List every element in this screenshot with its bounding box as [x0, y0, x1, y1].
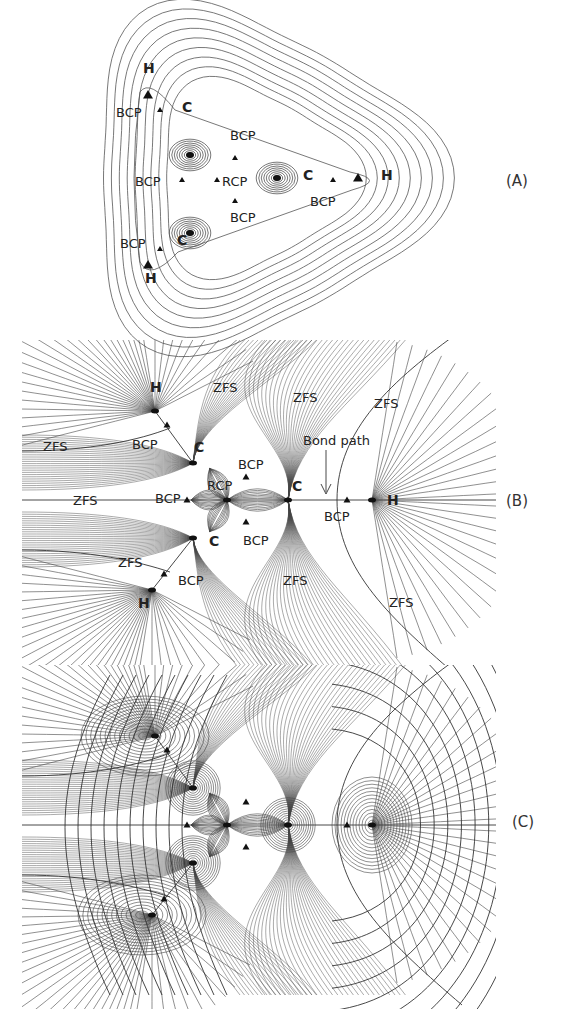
- gradient-path: [0, 915, 152, 968]
- gradient-path: [0, 915, 152, 918]
- gradient-path: [0, 736, 155, 758]
- nucleus-marker: [148, 913, 156, 918]
- gradient-path: [0, 915, 152, 1003]
- gradient-path: [372, 675, 427, 825]
- gradient-path: [152, 915, 204, 1009]
- gradient-path: [288, 825, 364, 995]
- gradient-path: [249, 825, 289, 995]
- panel-c: (C): [0, 0, 564, 1009]
- zfs-separatrix: [337, 825, 462, 1005]
- gradient-path: [372, 817, 532, 825]
- gradient-path: [77, 563, 155, 736]
- gradient-path: [101, 554, 155, 736]
- gradient-path: [193, 863, 258, 995]
- gradient-path: [288, 825, 400, 995]
- gradient-path: [193, 665, 267, 788]
- gradient-path: [0, 733, 155, 736]
- bcp-marker: [243, 844, 250, 850]
- gradient-path: [288, 825, 374, 995]
- gradient-path: [372, 825, 532, 833]
- nucleus-marker: [284, 823, 292, 828]
- gradient-contour-field-c: [0, 0, 564, 1009]
- gradient-path: [372, 825, 427, 975]
- gradient-path: [372, 825, 397, 983]
- gradient-path: [44, 582, 155, 736]
- gradient-path: [0, 915, 152, 931]
- gradient-path: [372, 667, 397, 825]
- gradient-path: [0, 721, 155, 737]
- gradient-path: [193, 665, 249, 788]
- gradient-path: [288, 665, 385, 825]
- nucleus-marker: [151, 734, 159, 739]
- nucleus-marker: [189, 786, 197, 791]
- gradient-path: [288, 665, 343, 825]
- gradient-path: [155, 646, 218, 736]
- field-group: [0, 527, 543, 1009]
- bcp-marker: [184, 822, 191, 828]
- outer-density-contour: [332, 550, 530, 1009]
- bcp-marker: [344, 822, 351, 828]
- bcp-marker: [243, 799, 250, 805]
- panel-label-c: (C): [512, 813, 534, 831]
- gradient-path: [0, 637, 155, 736]
- gradient-path: [193, 863, 263, 995]
- gradient-path: [372, 825, 501, 920]
- gradient-path: [193, 665, 272, 788]
- gradient-path: [288, 665, 405, 825]
- nucleus-marker: [223, 823, 231, 828]
- gradient-path: [193, 665, 312, 788]
- nucleus-marker: [368, 823, 376, 828]
- gradient-path: [372, 697, 468, 825]
- gradient-path: [0, 627, 155, 737]
- gradient-path: [372, 730, 501, 825]
- nucleus-marker: [189, 861, 197, 866]
- gradient-path: [155, 629, 182, 736]
- gradient-path: [288, 825, 390, 995]
- gradient-path: [16, 607, 155, 736]
- gradient-path: [288, 665, 379, 825]
